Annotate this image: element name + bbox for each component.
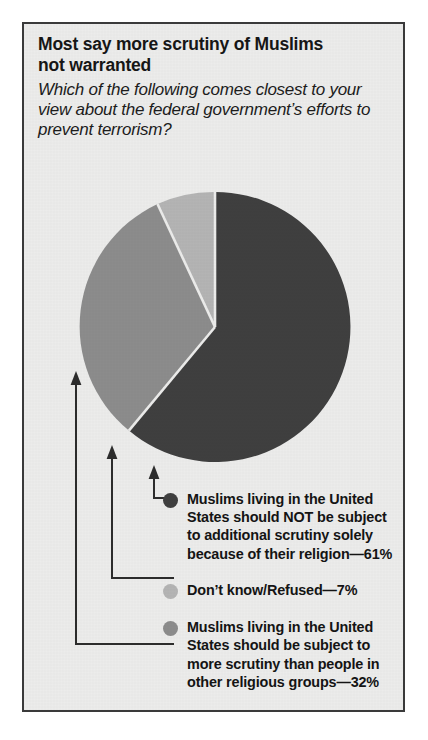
legend-item-32: Muslims living in the United States shou… (163, 618, 399, 691)
legend-label-7: Don’t know/Refused—7% (187, 581, 357, 599)
legend-label-61: Muslims living in the United States shou… (187, 490, 399, 563)
arrowhead-32 (71, 371, 82, 385)
legend-swatch-light (163, 584, 178, 599)
chart-legend: Muslims living in the United States shou… (163, 490, 399, 691)
legend-swatch-dark (163, 493, 178, 508)
chart-figure: Most say more scrutiny of Muslimsnot war… (22, 22, 405, 712)
legend-swatch-mid (163, 621, 178, 636)
legend-item-61: Muslims living in the United States shou… (163, 490, 399, 563)
arrowhead-61 (149, 465, 160, 479)
legend-label-32: Muslims living in the United States shou… (187, 618, 399, 691)
legend-item-7: Don’t know/Refused—7% (163, 581, 399, 599)
arrowhead-7 (107, 445, 118, 459)
